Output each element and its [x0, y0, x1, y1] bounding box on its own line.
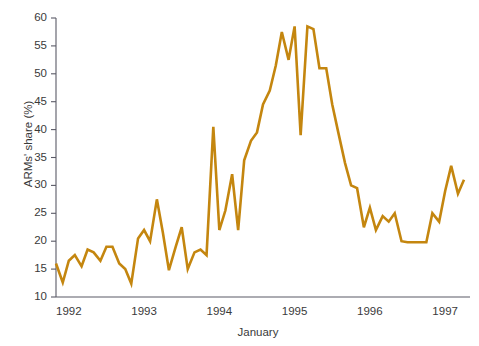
- y-axis-tick-label: 10: [23, 291, 47, 303]
- y-axis-tick-label: 15: [23, 263, 47, 275]
- x-axis-tick-label: 1997: [420, 306, 470, 318]
- y-axis-tick-label: 55: [23, 40, 47, 52]
- y-axis-tick-label: 20: [23, 235, 47, 247]
- x-axis-tick-label: 1992: [44, 306, 94, 318]
- data-line-arms-share: [56, 26, 464, 283]
- y-axis-tick-label: 60: [23, 12, 47, 24]
- chart-container: 1015202530354045505560 19921993199419951…: [0, 0, 479, 346]
- x-axis-tick-label: 1993: [119, 306, 169, 318]
- chart-axes: [51, 18, 470, 297]
- x-axis-title: January: [208, 326, 308, 338]
- chart-series: [56, 26, 464, 283]
- x-axis-tick-label: 1996: [345, 306, 395, 318]
- x-axis-tick-label: 1995: [270, 306, 320, 318]
- chart-plot-area: [0, 0, 479, 346]
- x-axis-tick-label: 1994: [194, 306, 244, 318]
- y-axis-title: ARMs' share (%): [22, 74, 34, 214]
